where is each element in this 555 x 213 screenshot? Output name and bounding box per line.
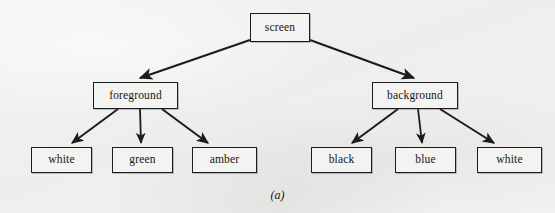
edge-foreground-green (140, 109, 141, 143)
node-background-label: background (387, 90, 443, 102)
node-white-background-label: white (496, 154, 522, 166)
node-background[interactable]: background (372, 82, 458, 109)
node-amber[interactable]: amber (192, 147, 257, 173)
edge-background-blue (418, 109, 422, 143)
node-blue-label: blue (415, 154, 435, 166)
node-white-background[interactable]: white (477, 147, 542, 173)
node-white-foreground[interactable]: white (31, 147, 92, 173)
edge-screen-foreground (140, 40, 250, 78)
node-white-foreground-label: white (48, 154, 74, 166)
node-screen-label: screen (265, 22, 295, 34)
node-blue[interactable]: blue (395, 147, 456, 173)
edge-background-white (440, 109, 494, 143)
node-amber-label: amber (210, 154, 239, 166)
edge-foreground-amber (162, 109, 208, 143)
edge-background-black (352, 109, 398, 143)
node-green-label: green (129, 154, 155, 166)
figure-caption: (a) (0, 188, 555, 203)
edge-foreground-white (72, 109, 118, 143)
node-black-label: black (329, 154, 355, 166)
node-foreground[interactable]: foreground (93, 82, 178, 109)
node-screen[interactable]: screen (250, 13, 310, 42)
node-foreground-label: foreground (109, 90, 162, 102)
node-black[interactable]: black (311, 147, 372, 173)
node-green[interactable]: green (112, 147, 173, 173)
edge-screen-background (310, 40, 414, 78)
